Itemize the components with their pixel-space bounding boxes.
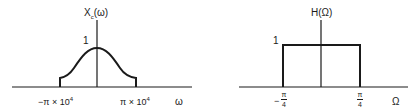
xc-ylabel-main: X <box>84 7 91 18</box>
diagram-canvas <box>0 0 414 110</box>
fraction-bar <box>357 99 363 100</box>
xc-tick-neg-exp: 4 <box>70 96 73 102</box>
xc-tick-neg: −π × 104 <box>38 96 73 107</box>
h-tick-pos-num: π <box>358 91 363 98</box>
h-ylabel: H(Ω) <box>311 8 332 18</box>
xc-ylabel: Xc(ω) <box>84 8 108 20</box>
h-tick-neg-sign: − <box>274 96 279 106</box>
h-level-label: 1 <box>273 36 279 46</box>
xc-xlabel: ω <box>175 97 183 107</box>
h-tick-neg-frac: π 4 <box>281 91 287 108</box>
h-tick-neg-den: 4 <box>282 101 286 108</box>
xc-peak-label: 1 <box>83 36 89 46</box>
h-tick-neg-num: π <box>282 91 287 98</box>
xc-tick-pos: π × 104 <box>120 96 150 107</box>
right-plot <box>239 20 408 87</box>
xc-tick-pos-exp: 4 <box>146 96 149 102</box>
xc-tick-pos-text: π × 10 <box>120 97 146 107</box>
xc-spectrum-curve <box>60 48 136 87</box>
h-tick-pos-frac: π 4 <box>357 91 363 108</box>
left-plot <box>12 20 192 87</box>
xc-tick-neg-text: −π × 10 <box>38 97 70 107</box>
h-tick-pos-den: 4 <box>358 101 362 108</box>
h-xlabel: Ω <box>392 97 399 107</box>
xc-ylabel-arg: (ω) <box>94 7 108 18</box>
fraction-bar <box>281 99 287 100</box>
